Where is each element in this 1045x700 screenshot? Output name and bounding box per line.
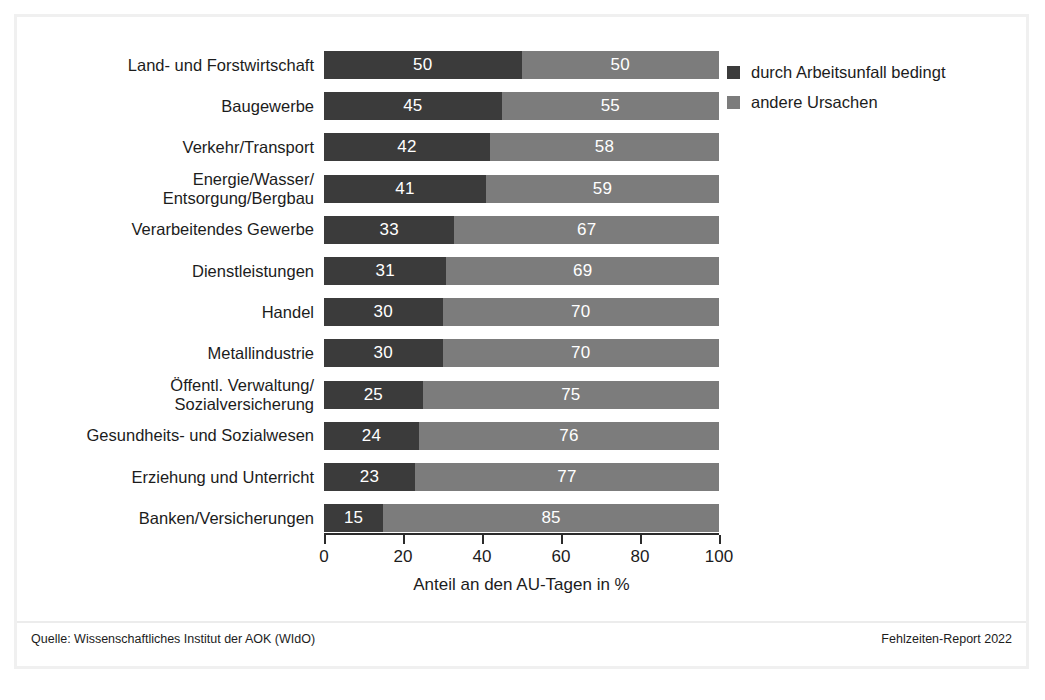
bar-segment-andere-ursachen: 76	[419, 422, 719, 450]
bar-segment-andere-ursachen: 70	[443, 339, 720, 367]
x-axis-tick-label: 20	[373, 547, 433, 567]
bar-segment-andere-ursachen: 77	[415, 463, 719, 491]
x-axis-tick-label: 40	[452, 547, 512, 567]
chart-figure: Land- und ForstwirtschaftBaugewerbeVerke…	[14, 14, 1029, 669]
category-label: Verkehr/Transport	[37, 138, 314, 157]
bar-row: 2575	[324, 381, 719, 409]
bar-row: 4258	[324, 133, 719, 161]
bar-segment-arbeitsunfall: 41	[324, 175, 486, 203]
bar-segment-arbeitsunfall: 45	[324, 92, 502, 120]
x-axis-tick-label: 100	[689, 547, 749, 567]
legend-item: andere Ursachen	[727, 87, 945, 117]
bar-segment-andere-ursachen: 85	[383, 504, 719, 532]
bar-segment-andere-ursachen: 75	[423, 381, 719, 409]
x-axis-tick	[324, 535, 326, 544]
bar-segment-arbeitsunfall: 24	[324, 422, 419, 450]
bar-row: 5050	[324, 51, 719, 79]
x-axis-tick	[403, 535, 405, 544]
legend-item: durch Arbeitsunfall bedingt	[727, 57, 945, 87]
x-axis-tick-label: 80	[610, 547, 670, 567]
bar-segment-andere-ursachen: 55	[502, 92, 719, 120]
bar-segment-arbeitsunfall: 31	[324, 257, 446, 285]
x-axis-tick	[561, 535, 563, 544]
bar-segment-andere-ursachen: 50	[522, 51, 720, 79]
x-axis-tick-label: 60	[531, 547, 591, 567]
footer-source: Quelle: Wissenschaftliches Institut der …	[31, 632, 315, 646]
bar-segment-andere-ursachen: 58	[490, 133, 719, 161]
category-label: Metallindustrie	[37, 344, 314, 363]
legend: durch Arbeitsunfall bedingtandere Ursach…	[727, 57, 945, 117]
bar-row: 2476	[324, 422, 719, 450]
legend-swatch-icon	[727, 66, 740, 79]
x-axis-title: Anteil an den AU-Tagen in %	[324, 575, 719, 595]
bar-segment-arbeitsunfall: 42	[324, 133, 490, 161]
bar-row: 4555	[324, 92, 719, 120]
category-label: Baugewerbe	[37, 97, 314, 116]
category-label: Energie/Wasser/ Entsorgung/Bergbau	[37, 170, 314, 208]
legend-label: durch Arbeitsunfall bedingt	[751, 63, 945, 82]
bar-segment-andere-ursachen: 69	[446, 257, 719, 285]
category-label: Öffentl. Verwaltung/ Sozialversicherung	[37, 376, 314, 414]
bar-segment-arbeitsunfall: 25	[324, 381, 423, 409]
bar-segment-arbeitsunfall: 50	[324, 51, 522, 79]
x-axis-line	[324, 533, 719, 535]
bar-segment-arbeitsunfall: 30	[324, 298, 443, 326]
x-axis-tick	[719, 535, 721, 544]
bar-row: 2377	[324, 463, 719, 491]
category-label: Dienstleistungen	[37, 262, 314, 281]
bar-segment-andere-ursachen: 59	[486, 175, 719, 203]
bar-segment-arbeitsunfall: 33	[324, 216, 454, 244]
bar-segment-andere-ursachen: 67	[454, 216, 719, 244]
bar-row: 4159	[324, 175, 719, 203]
footer-divider	[17, 621, 1026, 623]
category-label: Gesundheits- und Sozialwesen	[37, 426, 314, 445]
category-label: Erziehung und Unterricht	[37, 468, 314, 487]
bar-row: 3070	[324, 339, 719, 367]
category-label: Banken/Versicherungen	[37, 509, 314, 528]
bar-segment-arbeitsunfall: 15	[324, 504, 383, 532]
bar-segment-arbeitsunfall: 30	[324, 339, 443, 367]
footer-report: Fehlzeiten-Report 2022	[881, 632, 1012, 646]
x-axis-tick-label: 0	[294, 547, 354, 567]
x-axis-tick	[640, 535, 642, 544]
legend-swatch-icon	[727, 96, 740, 109]
category-label: Verarbeitendes Gewerbe	[37, 220, 314, 239]
bar-segment-andere-ursachen: 70	[443, 298, 720, 326]
bar-segment-arbeitsunfall: 23	[324, 463, 415, 491]
category-label: Land- und Forstwirtschaft	[37, 56, 314, 75]
legend-label: andere Ursachen	[751, 93, 878, 112]
category-label: Handel	[37, 303, 314, 322]
bar-row: 1585	[324, 504, 719, 532]
bar-row: 3367	[324, 216, 719, 244]
bar-row: 3070	[324, 298, 719, 326]
x-axis-tick	[482, 535, 484, 544]
bar-row: 3169	[324, 257, 719, 285]
